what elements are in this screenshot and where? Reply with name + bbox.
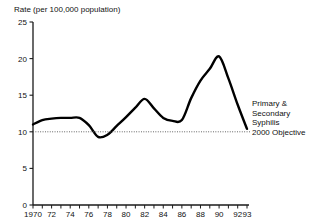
y-tick-label: 25: [18, 18, 27, 27]
data-series-group: [33, 56, 251, 137]
series-line-primary-secondary-syphilis: [33, 56, 247, 137]
x-tick-label: 88: [196, 210, 205, 219]
x-tick-label: 72: [47, 210, 56, 219]
x-tick-label: 90: [215, 210, 224, 219]
y-tick-label: 10: [18, 128, 27, 137]
x-tick-label: 1970: [24, 210, 42, 219]
legend-2000-objective: 2000 Objective: [252, 128, 305, 138]
x-tick-label: 93: [243, 210, 252, 219]
y-tick-label: 20: [18, 55, 27, 64]
legend-series-line-2: Secondary: [252, 109, 290, 119]
y-tick-label: 0: [23, 201, 28, 210]
x-tick-label: 74: [66, 210, 75, 219]
x-tick-label: 92: [233, 210, 242, 219]
legend-primary-secondary-syphilis: Primary & Secondary Syphilis: [252, 99, 290, 128]
y-tick-label: 15: [18, 91, 27, 100]
legend-series-line-1: Primary &: [252, 99, 290, 109]
y-tick-label: 5: [23, 164, 28, 173]
x-tick-label: 80: [122, 210, 131, 219]
y-axis: 0510152025: [18, 18, 33, 210]
x-tick-label: 84: [159, 210, 168, 219]
legend-series-line-3: Syphilis: [252, 118, 290, 128]
chart-container: Rate (per 100,000 population) 0510152025…: [0, 0, 315, 222]
x-tick-label: 82: [140, 210, 149, 219]
x-tick-label: 76: [84, 210, 93, 219]
x-axis: 1970727476788082848688909293: [24, 205, 252, 219]
x-tick-label: 78: [103, 210, 112, 219]
x-tick-label: 86: [177, 210, 186, 219]
